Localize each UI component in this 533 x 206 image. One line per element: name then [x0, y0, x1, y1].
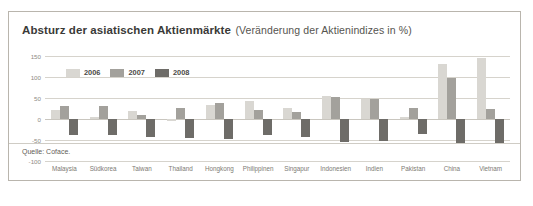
- y-axis-tick-label: 0: [38, 119, 41, 120]
- chart-figure: Absturz der asiatischen Aktienmärkte (Ve…: [8, 11, 521, 181]
- bar-group-indien: [361, 56, 388, 161]
- bar-indonesien-2006: [322, 96, 331, 119]
- bar-indonesien-2008: [340, 119, 349, 142]
- bar-thailand-2007: [176, 108, 185, 119]
- x-axis-label-malaysia: Malaysia: [52, 165, 77, 172]
- legend-item-2008: 2008: [155, 68, 189, 77]
- chart-legend: 200620072008: [66, 68, 189, 77]
- bar-thailand-2006: [167, 119, 176, 121]
- bar-group-philippinen: [245, 56, 272, 161]
- bar-taiwan-2006: [128, 111, 137, 119]
- bar-pakistan-2007: [409, 108, 418, 119]
- bar-südkorea-2008: [108, 119, 117, 135]
- bar-südkorea-2007: [99, 106, 108, 119]
- bar-hongkong-2006: [206, 105, 215, 119]
- legend-label: 2008: [173, 68, 189, 77]
- x-axis-label-indonesien: Indonesien: [320, 165, 351, 172]
- y-axis-tick-label: 50: [34, 98, 41, 99]
- bar-singapur-2008: [301, 119, 310, 137]
- legend-label: 2006: [84, 68, 100, 77]
- bar-indien-2007: [370, 99, 379, 119]
- bar-philippinen-2006: [245, 101, 254, 119]
- bar-singapur-2006: [283, 108, 292, 119]
- bar-taiwan-2008: [146, 119, 155, 137]
- x-axis-label-pakistan: Pakistan: [401, 165, 425, 172]
- bar-china-2007: [447, 78, 456, 119]
- x-axis-label-china: China: [444, 165, 460, 172]
- bar-china-2006: [438, 64, 447, 119]
- bar-singapur-2007: [292, 112, 301, 119]
- bar-philippinen-2008: [263, 119, 272, 135]
- y-axis-tick-label: -100: [29, 161, 41, 162]
- bar-indien-2006: [361, 99, 370, 119]
- bar-china-2008: [456, 119, 465, 144]
- x-axis-label-indien: Indien: [366, 165, 383, 172]
- bar-taiwan-2007: [137, 115, 146, 119]
- bar-indonesien-2007: [331, 97, 340, 119]
- bar-indien-2008: [379, 119, 388, 141]
- bar-group-china: [438, 56, 465, 161]
- chart-title-main: Absturz der asiatischen Aktienmärkte: [22, 24, 231, 36]
- bar-pakistan-2008: [418, 119, 427, 134]
- legend-swatch-icon: [110, 69, 124, 77]
- bar-vietnam-2008: [495, 119, 504, 143]
- legend-swatch-icon: [155, 69, 169, 77]
- x-axis-label-südkorea: Südkorea: [90, 165, 117, 172]
- x-axis-label-philippinen: Philippinen: [243, 165, 274, 172]
- x-axis-label-hongkong: Hongkong: [205, 165, 234, 172]
- bar-thailand-2008: [185, 119, 194, 138]
- legend-item-2006: 2006: [66, 68, 100, 77]
- x-axis-label-singapur: Singapur: [284, 165, 309, 172]
- bar-group-pakistan: [400, 56, 427, 161]
- bar-malaysia-2007: [60, 106, 69, 119]
- y-axis-tick-label: 150: [31, 56, 41, 57]
- bar-philippinen-2007: [254, 110, 263, 119]
- legend-label: 2007: [128, 68, 144, 77]
- chart-title: Absturz der asiatischen Aktienmärkte (Ve…: [22, 20, 510, 36]
- bar-pakistan-2006: [400, 117, 409, 119]
- bar-hongkong-2007: [215, 103, 224, 119]
- x-axis-label-vietnam: Vietnam: [479, 165, 502, 172]
- footer-divider: [9, 143, 520, 144]
- x-axis-label-taiwan: Taiwan: [132, 165, 152, 172]
- y-axis-tick-label: 100: [31, 77, 41, 78]
- bar-group-singapur: [283, 56, 310, 161]
- legend-swatch-icon: [66, 69, 80, 77]
- bar-hongkong-2008: [224, 119, 233, 139]
- legend-item-2007: 2007: [110, 68, 144, 77]
- gridline: [45, 161, 510, 162]
- y-axis-tick-label: -50: [32, 140, 41, 141]
- bar-südkorea-2006: [90, 117, 99, 119]
- bar-vietnam-2007: [486, 109, 495, 120]
- bar-malaysia-2006: [51, 110, 60, 119]
- chart-title-subtitle: (Veränderung der Aktienindizes in %): [235, 24, 411, 36]
- bar-vietnam-2006: [477, 58, 486, 119]
- source-note: Quelle: Coface.: [22, 148, 70, 155]
- bar-group-hongkong: [206, 56, 233, 161]
- bar-malaysia-2008: [69, 119, 78, 135]
- x-axis-label-thailand: Thailand: [169, 165, 193, 172]
- bar-group-vietnam: [477, 56, 504, 161]
- bar-group-indonesien: [322, 56, 349, 161]
